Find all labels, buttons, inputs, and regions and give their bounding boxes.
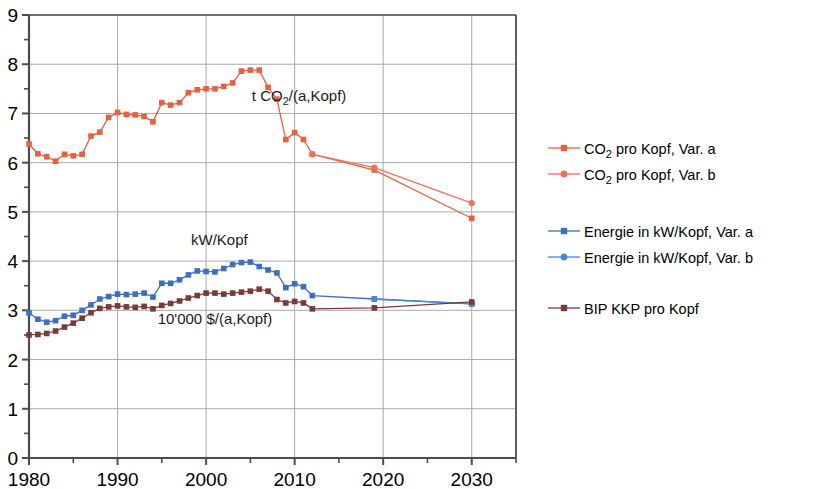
series-marker <box>150 294 156 300</box>
series-marker <box>88 133 94 139</box>
y-axis-tick-label: 9 <box>7 5 18 26</box>
legend-marker <box>561 228 567 234</box>
series-line <box>29 70 472 218</box>
series-marker <box>248 259 254 265</box>
series-marker <box>124 304 130 310</box>
legend-entry-label: CO2 pro Kopf, Var. b <box>584 167 716 186</box>
series-marker <box>186 272 192 278</box>
series-marker <box>132 305 138 311</box>
axis-ticks-layer <box>22 15 516 465</box>
y-axis-tick-label: 6 <box>7 153 18 174</box>
series-marker <box>70 312 76 318</box>
series-marker <box>132 112 138 118</box>
series-marker <box>239 260 245 266</box>
grid-layer <box>29 15 516 458</box>
x-axis-tick-label: 1980 <box>8 469 50 489</box>
series-marker <box>106 304 112 310</box>
series-marker <box>97 306 103 312</box>
legend-marker <box>561 145 567 151</box>
series-marker <box>70 153 76 159</box>
series-marker <box>62 151 68 157</box>
x-axis-tick-label: 2030 <box>451 469 493 489</box>
series-marker <box>256 286 262 292</box>
series-marker <box>301 137 307 143</box>
series-marker <box>283 300 289 306</box>
series-marker <box>469 215 475 221</box>
legend-entry-label: CO2 pro Kopf, Var. a <box>584 141 717 160</box>
series-marker <box>203 86 209 92</box>
series-marker <box>186 90 192 96</box>
series-marker <box>194 293 200 299</box>
series-marker <box>79 308 85 314</box>
series-marker <box>248 67 254 73</box>
series-marker <box>212 269 218 275</box>
axis-lines <box>29 15 516 458</box>
series-marker <box>469 299 475 305</box>
y-axis-tick-label: 0 <box>7 448 18 469</box>
series-marker <box>265 267 271 273</box>
series-marker <box>97 296 103 302</box>
series-marker <box>248 288 254 294</box>
series-marker <box>159 280 165 286</box>
series-marker <box>124 112 130 118</box>
legend-entry[interactable]: Energie in kW/Kopf, Var. a <box>548 224 754 240</box>
plot-annotation: kW/Kopf <box>191 231 249 248</box>
series-marker <box>194 87 200 93</box>
y-axis-tick-label: 4 <box>7 251 18 272</box>
series-marker <box>115 291 121 297</box>
series-marker <box>168 280 174 286</box>
series-marker <box>301 284 307 290</box>
series-marker <box>194 268 200 274</box>
series-marker <box>265 288 271 294</box>
series-marker <box>239 289 245 295</box>
series-marker <box>310 293 316 299</box>
series-marker <box>62 324 68 330</box>
y-axis-tick-label: 5 <box>7 202 18 223</box>
y-axis-tick-label: 1 <box>7 399 18 420</box>
y-axis-tick-label: 3 <box>7 300 18 321</box>
series-marker <box>106 294 112 300</box>
data-series <box>26 67 474 221</box>
legend-marker <box>561 171 568 178</box>
legend-entry[interactable]: CO2 pro Kopf, Var. a <box>548 141 717 160</box>
y-axis-tick-label: 8 <box>7 54 18 75</box>
legend-entry[interactable]: CO2 pro Kopf, Var. b <box>548 167 716 186</box>
series-marker <box>301 300 307 306</box>
y-axis-tick-label: 7 <box>7 103 18 124</box>
series-marker <box>310 306 316 312</box>
series-marker <box>62 313 68 319</box>
series-marker <box>44 154 50 160</box>
y-axis-tick-label: 2 <box>7 350 18 371</box>
series-marker <box>309 151 315 157</box>
legend-marker <box>561 305 567 311</box>
series-marker <box>53 328 59 334</box>
axis-tick-labels: 0123456789198019902000201020202030 <box>7 5 492 489</box>
chart-legend: CO2 pro Kopf, Var. aCO2 pro Kopf, Var. b… <box>548 141 754 317</box>
series-marker <box>106 115 112 121</box>
series-marker <box>292 130 298 136</box>
series-marker <box>159 303 165 309</box>
legend-entry[interactable]: Energie in kW/Kopf, Var. b <box>548 250 753 266</box>
series-marker <box>44 331 50 337</box>
legend-entry[interactable]: BIP KKP pro Kopf <box>548 301 700 317</box>
series-marker <box>97 129 103 135</box>
series-marker <box>239 68 245 74</box>
legend-marker <box>561 254 568 261</box>
series-marker <box>203 269 209 275</box>
x-axis-tick-label: 1990 <box>96 469 138 489</box>
series-marker <box>283 137 289 143</box>
series-marker <box>124 292 130 298</box>
series-marker <box>221 84 227 90</box>
series-marker <box>141 304 147 310</box>
chart-figure: 0123456789198019902000201020202030 t CO2… <box>0 0 815 489</box>
series-marker <box>274 270 280 276</box>
series-marker <box>35 332 41 338</box>
legend-entry-label: Energie in kW/Kopf, Var. a <box>584 224 754 240</box>
series-marker <box>132 291 138 297</box>
series-marker <box>203 290 209 296</box>
series-marker <box>230 80 236 86</box>
series-marker <box>79 315 85 321</box>
series-marker <box>88 310 94 316</box>
series-marker <box>53 318 59 324</box>
series-marker <box>150 306 156 312</box>
